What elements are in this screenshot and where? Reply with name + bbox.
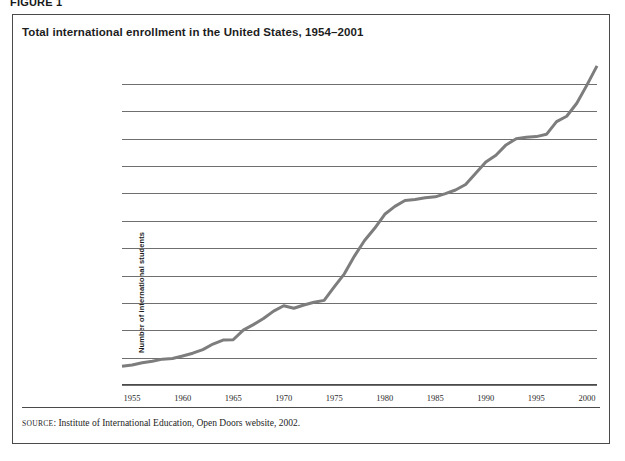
series-line: [122, 66, 597, 366]
enrollment-line-series: [122, 73, 597, 385]
source-text: Institute of International Education, Op…: [58, 418, 300, 428]
x-axis-tick-label: 1995: [528, 393, 545, 403]
x-axis-tick-label: 1990: [477, 393, 494, 403]
plot-area: Number of international students 050,000…: [122, 73, 597, 385]
x-axis-tick-label: 1975: [326, 393, 343, 403]
x-axis-tick-label: 2000: [578, 393, 595, 403]
x-axis-tick-label: 1965: [225, 393, 242, 403]
x-axis-tick-label: 1970: [275, 393, 292, 403]
source-note: SOURCE: Institute of International Educa…: [22, 418, 300, 428]
x-axis-tick-label: 1985: [427, 393, 444, 403]
source-prefix: SOURCE: [22, 419, 53, 428]
gridline: [122, 385, 597, 386]
figure-label: FIGURE 1: [10, 0, 62, 8]
figure-page: FIGURE 1 Total international enrollment …: [0, 0, 625, 461]
x-axis-tick-label: 1980: [376, 393, 393, 403]
footer-divider: [22, 407, 600, 408]
x-axis-tick-label: 1960: [174, 393, 191, 403]
x-axis-tick-label: 1955: [124, 393, 141, 403]
chart-title: Total international enrollment in the Un…: [22, 26, 364, 38]
